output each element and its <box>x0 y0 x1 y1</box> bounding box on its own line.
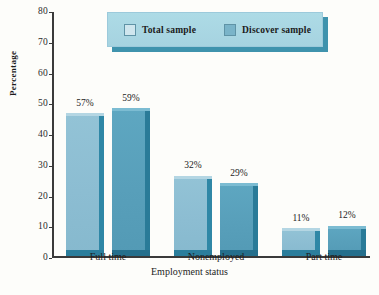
y-tick-label: 30 <box>22 161 48 171</box>
bar-side-shade <box>99 116 104 256</box>
y-tick-label: 80 <box>22 7 48 17</box>
bar-side-shade <box>253 186 258 256</box>
legend-swatch-discover-icon <box>224 24 236 36</box>
bar-face <box>112 108 145 256</box>
bar-face <box>220 183 253 256</box>
y-tick-label: 20 <box>22 192 48 202</box>
legend-label-total: Total sample <box>142 25 196 35</box>
y-tick-mark <box>49 43 52 44</box>
x-category-label: Part time <box>264 252 379 262</box>
y-tick-mark <box>49 104 52 105</box>
bar-value-label: 11% <box>279 214 323 224</box>
y-tick-mark <box>49 135 52 136</box>
bar-discover-sample[interactable] <box>220 183 258 256</box>
legend-item-total-sample[interactable]: Total sample <box>124 24 196 36</box>
bar-face <box>174 176 207 256</box>
y-axis-title: Percentage <box>8 51 18 96</box>
bar-top-shade <box>174 176 212 179</box>
bar-value-label: 57% <box>63 99 107 109</box>
legend-item-discover-sample[interactable]: Discover sample <box>224 24 311 36</box>
y-tick-label: 40 <box>22 130 48 140</box>
bar-top-shade <box>66 113 104 116</box>
bar-top-shade <box>220 183 258 186</box>
legend-label-discover: Discover sample <box>242 25 311 35</box>
legend-swatch-total-icon <box>124 24 136 36</box>
y-tick-label: 50 <box>22 100 48 110</box>
bar-value-label: 12% <box>325 211 369 221</box>
bar-top-shade <box>112 108 150 111</box>
bar-side-shade <box>207 179 212 256</box>
y-tick-label: 10 <box>22 223 48 233</box>
y-tick-mark <box>49 166 52 167</box>
bar-chart: Percentage 01020304050607080 57%59%32%29… <box>0 0 379 295</box>
bar-discover-sample[interactable] <box>112 108 150 256</box>
y-tick-mark <box>49 74 52 75</box>
y-axis-line <box>52 12 54 258</box>
x-category-label: Full time <box>48 252 168 262</box>
bar-face <box>66 113 99 256</box>
y-tick-label: 0 <box>22 253 48 263</box>
y-tick-label: 70 <box>22 38 48 48</box>
x-axis-title: Employment status <box>0 266 379 277</box>
legend: Total sample Discover sample <box>107 12 323 47</box>
bar-value-label: 59% <box>109 94 153 104</box>
bar-top-shade <box>328 226 366 229</box>
x-category-label: Nonemployed <box>156 252 276 262</box>
bar-side-shade <box>145 111 150 256</box>
y-tick-mark <box>49 12 52 13</box>
bar-top-shade <box>282 228 320 231</box>
bar-total-sample[interactable] <box>66 113 104 256</box>
legend-panel: Total sample Discover sample <box>107 12 323 47</box>
bar-value-label: 32% <box>171 161 215 171</box>
bar-total-sample[interactable] <box>174 176 212 256</box>
bar-value-label: 29% <box>217 169 261 179</box>
y-tick-mark <box>49 227 52 228</box>
y-tick-label: 60 <box>22 69 48 79</box>
y-tick-mark <box>49 197 52 198</box>
